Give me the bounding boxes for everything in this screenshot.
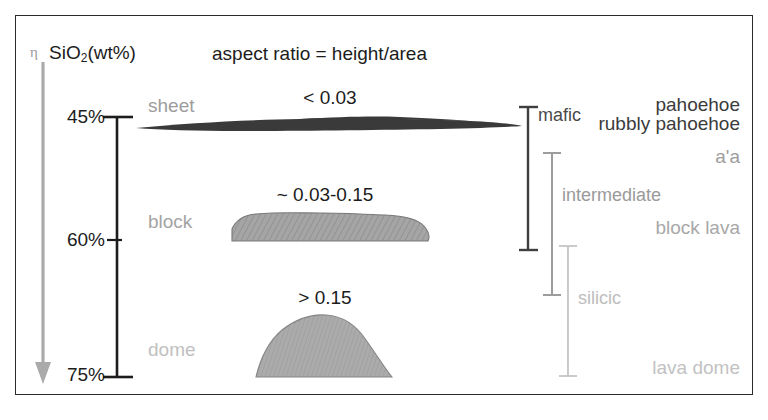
lava-type-label-pahoehoe: pahoehoe [320, 95, 740, 114]
composition-bracket-silicic [559, 246, 577, 376]
lava-type-label-lava-dome: lava dome [320, 358, 740, 377]
lava-type-label-aa: a'a [320, 147, 740, 166]
aspect-ratio-definition: aspect ratio = height/area [212, 44, 427, 63]
silica-axis-title-text: SiO [49, 42, 81, 63]
lava-type-label-block-lava: block lava [320, 218, 740, 237]
lava-morphology-diagram: η SiO2(wt%) aspect ratio = height/area 4… [0, 0, 768, 420]
aspect-ratio-value-block: ~ 0.03-0.15 [245, 185, 405, 204]
composition-label-silicic: silicic [578, 289, 621, 307]
lava-type-label-rubbly-pahoehoe: rubbly pahoehoe [320, 114, 740, 133]
silica-axis-title-subscript: 2 [81, 51, 88, 65]
aspect-ratio-value-dome: > 0.15 [245, 288, 405, 307]
axis-tick-label-45: 45% [45, 107, 105, 126]
flow-label-dome: dome [148, 340, 196, 359]
flow-label-block: block [148, 212, 192, 231]
silica-axis-title-units: (wt%) [87, 42, 136, 63]
axis-tick-label-75: 75% [45, 365, 105, 384]
viscosity-symbol-label: η [30, 45, 38, 60]
silica-axis-title: SiO2(wt%) [49, 43, 136, 62]
axis-tick-label-60: 60% [45, 230, 105, 249]
silica-axis [103, 117, 133, 377]
composition-label-intermediate: intermediate [562, 186, 661, 204]
flow-label-sheet: sheet [148, 96, 194, 115]
